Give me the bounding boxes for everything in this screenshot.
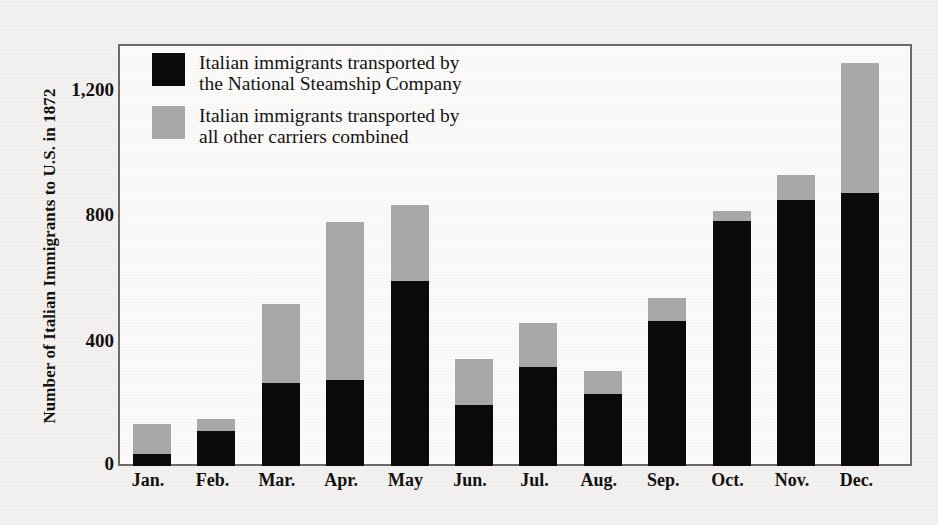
- bar-group-sep: [648, 298, 686, 466]
- x-axis-labels: Jan.Feb.Mar.Apr.MayJun.Jul.Aug.Sep.Oct.N…: [118, 470, 912, 500]
- bar-group-apr: [326, 222, 364, 466]
- legend-entry-national-steamship-company: Italian immigrants transported by the Na…: [152, 52, 582, 94]
- bar-segment-national-steamship: [777, 200, 815, 466]
- x-tick-label-jun: Jun.: [435, 470, 505, 491]
- bar-segment-national-steamship: [648, 321, 686, 466]
- bar-group-nov: [777, 175, 815, 466]
- legend-label-black: Italian immigrants transported by the Na…: [199, 52, 462, 94]
- x-tick-label-mar: Mar.: [242, 470, 312, 491]
- bar-group-oct: [713, 211, 751, 466]
- bar-segment-national-steamship: [262, 383, 300, 466]
- bar-group-jul: [519, 323, 557, 466]
- bar-segment-national-steamship: [519, 367, 557, 466]
- bar-group-aug: [584, 371, 622, 466]
- legend-label-black-line2: the National Steamship Company: [199, 73, 462, 94]
- bar-segment-other-carriers: [713, 211, 751, 221]
- bar-segment-other-carriers: [777, 175, 815, 200]
- y-axis-ticks: 1,200 800 400 0: [28, 0, 114, 525]
- bar-group-mar: [262, 304, 300, 466]
- bar-group-dec: [841, 63, 879, 466]
- x-tick-label-may: May: [371, 470, 441, 491]
- bar-segment-other-carriers: [133, 424, 171, 455]
- legend-entry-other-carriers: Italian immigrants transported by all ot…: [152, 105, 582, 147]
- y-tick-label-800: 800: [42, 204, 114, 226]
- legend-label-gray: Italian immigrants transported by all ot…: [199, 105, 459, 147]
- legend-label-black-line1: Italian immigrants transported by: [199, 52, 459, 73]
- bar-segment-other-carriers: [648, 298, 686, 321]
- y-tick-label-1200: 1,200: [42, 79, 114, 101]
- x-tick-label-apr: Apr.: [306, 470, 376, 491]
- legend-swatch-gray: [152, 106, 185, 139]
- bar-segment-national-steamship: [584, 394, 622, 466]
- bar-segment-other-carriers: [262, 304, 300, 384]
- bar-segment-national-steamship: [326, 380, 364, 466]
- bar-segment-national-steamship: [455, 405, 493, 466]
- bar-segment-other-carriers: [841, 63, 879, 193]
- x-tick-label-sep: Sep.: [628, 470, 698, 491]
- legend-label-gray-line1: Italian immigrants transported by: [199, 105, 459, 126]
- x-tick-label-oct: Oct.: [693, 470, 763, 491]
- x-tick-label-jul: Jul.: [499, 470, 569, 491]
- bar-segment-national-steamship: [197, 431, 235, 466]
- bar-segment-other-carriers: [455, 359, 493, 405]
- bar-segment-other-carriers: [519, 323, 557, 368]
- bar-segment-other-carriers: [391, 205, 429, 281]
- y-tick-label-400: 400: [42, 330, 114, 352]
- bar-group-feb: [197, 419, 235, 466]
- y-tick-label-0: 0: [42, 453, 114, 475]
- x-tick-label-feb: Feb.: [177, 470, 247, 491]
- x-tick-label-aug: Aug.: [564, 470, 634, 491]
- chart-legend: Italian immigrants transported by the Na…: [152, 52, 582, 158]
- bar-segment-other-carriers: [584, 371, 622, 394]
- x-tick-label-dec: Dec.: [821, 470, 891, 491]
- x-tick-label-nov: Nov.: [757, 470, 827, 491]
- bar-segment-national-steamship: [391, 281, 429, 466]
- bar-group-may: [391, 205, 429, 466]
- bar-segment-other-carriers: [326, 222, 364, 380]
- bar-segment-national-steamship: [841, 193, 879, 466]
- x-tick-label-jan: Jan.: [113, 470, 183, 491]
- bar-chart-figure: Number of Italian Immigrants to U.S. in …: [0, 0, 938, 525]
- bar-segment-national-steamship: [133, 454, 171, 466]
- bar-segment-other-carriers: [197, 419, 235, 431]
- legend-label-gray-line2: all other carriers combined: [199, 126, 459, 147]
- bar-segment-national-steamship: [713, 221, 751, 466]
- bar-group-jun: [455, 359, 493, 466]
- bar-group-jan: [133, 424, 171, 466]
- legend-swatch-black: [152, 53, 185, 86]
